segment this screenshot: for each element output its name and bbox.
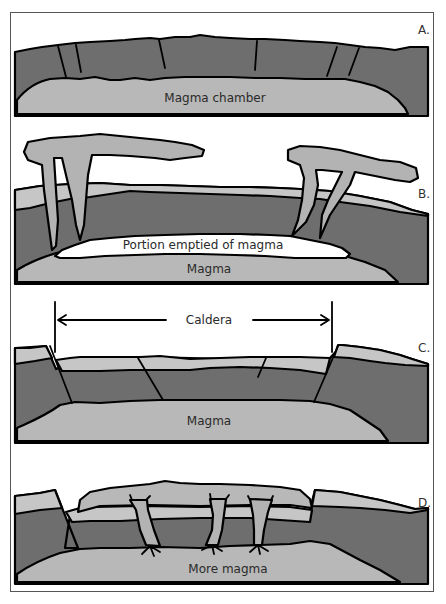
panel-b: Portion emptied of magma Magma B. — [15, 134, 430, 284]
panel-c: Caldera Magma C. — [15, 302, 430, 443]
panel-d-label: D. — [418, 496, 431, 510]
panel-c-label: C. — [418, 341, 430, 355]
panel-a-label: A. — [418, 23, 430, 37]
panel-a: Magma chamber A. — [15, 23, 430, 116]
panel-a-caption: Magma chamber — [164, 91, 265, 105]
panel-d-caption: More magma — [188, 562, 267, 576]
caldera-arrow-left — [58, 315, 166, 325]
caldera-label: Caldera — [186, 313, 232, 327]
caldera-formation-diagram: Magma chamber A. Portion emptied of magm… — [0, 0, 446, 604]
caldera-arrow-right — [253, 315, 329, 325]
panel-c-caption: Magma — [187, 414, 231, 428]
panel-b-caption-magma: Magma — [187, 262, 231, 276]
panel-b-caption-emptied: Portion emptied of magma — [123, 238, 284, 252]
panel-b-label: B. — [418, 187, 430, 201]
panel-d: More magma D. — [15, 481, 431, 584]
